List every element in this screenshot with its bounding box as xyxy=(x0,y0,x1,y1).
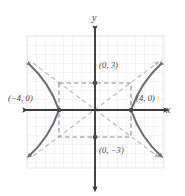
label-vertex-left: (−4, 0) xyxy=(8,93,33,103)
point-vertex-right xyxy=(129,108,134,113)
label-covertex-bottom: (0, −3) xyxy=(99,145,124,155)
point-covertex-top xyxy=(93,81,98,86)
point-vertex-left xyxy=(57,108,62,113)
point-covertex-bottom xyxy=(93,135,98,140)
label-vertex-right: (4, 0) xyxy=(136,93,155,103)
hyperbola-figure: x y (−4, 0) (4, 0) (0, 3) (0, −3) xyxy=(0,0,185,196)
y-axis-label: y xyxy=(92,12,96,23)
x-axis-label: x xyxy=(166,104,170,115)
label-covertex-top: (0, 3) xyxy=(99,60,118,70)
